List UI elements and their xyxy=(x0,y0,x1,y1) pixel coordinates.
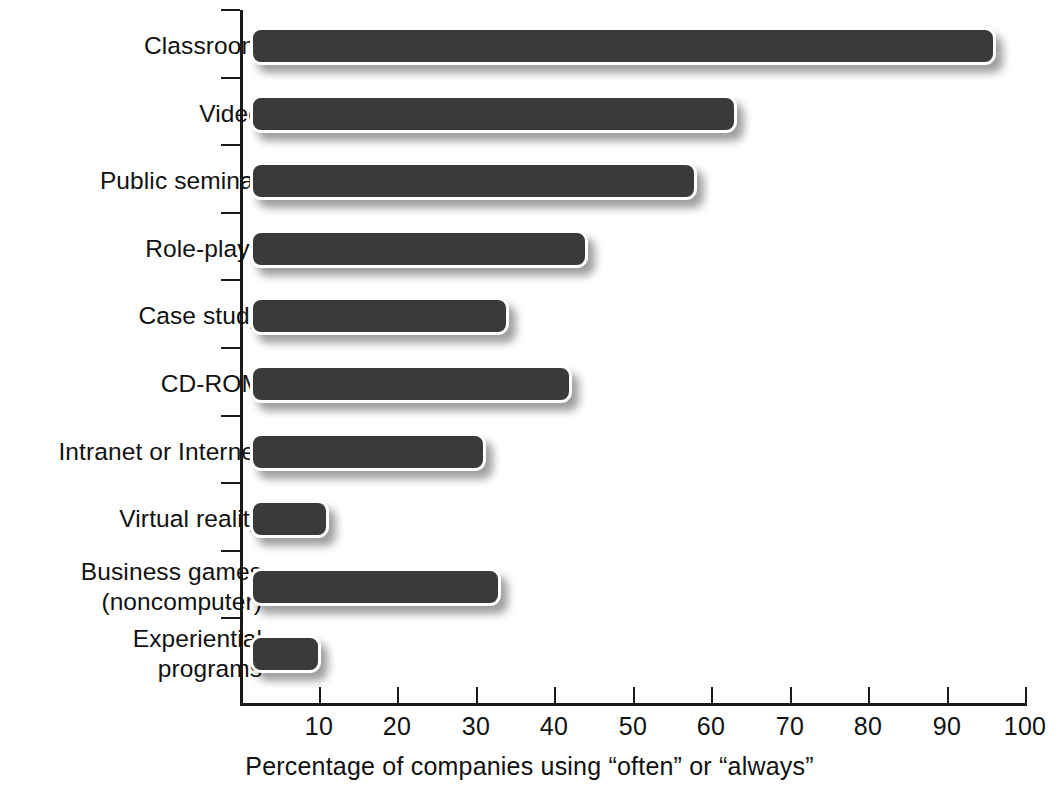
category-label-line: programs xyxy=(0,654,262,684)
plot-area: 102030405060708090100 ClassroomVideoPubl… xyxy=(0,0,1059,800)
x-axis-tick xyxy=(1025,687,1027,705)
x-axis-tick xyxy=(790,687,792,705)
x-axis-tick-label: 10 xyxy=(284,712,354,741)
y-axis-tick xyxy=(221,550,240,552)
y-axis-tick xyxy=(221,212,240,214)
bar xyxy=(250,500,329,538)
category-label: Video xyxy=(0,99,262,129)
bar xyxy=(250,162,697,200)
x-axis-tick-label: 50 xyxy=(598,712,668,741)
category-label-line: Role-plays xyxy=(0,234,262,264)
x-axis-tick-label: 40 xyxy=(519,712,589,741)
category-label: Public seminar xyxy=(0,166,262,196)
bar-chart: 102030405060708090100 ClassroomVideoPubl… xyxy=(0,0,1059,800)
bar-fill xyxy=(250,95,737,133)
x-axis-tick-label: 60 xyxy=(676,712,746,741)
y-axis-tick xyxy=(221,415,240,417)
category-label: Business games(noncomputer) xyxy=(0,557,262,617)
bar xyxy=(250,433,486,471)
x-axis-tick-label: 30 xyxy=(441,712,511,741)
category-label: Case study xyxy=(0,301,262,331)
bar xyxy=(250,635,321,673)
x-axis-tick-label: 70 xyxy=(755,712,825,741)
category-label: Intranet or Internet xyxy=(0,437,262,467)
category-label-line: Classroom xyxy=(0,31,262,61)
bar-fill xyxy=(250,365,572,403)
bar-fill xyxy=(250,568,501,606)
x-axis-tick xyxy=(633,687,635,705)
category-label: Classroom xyxy=(0,31,262,61)
bar-fill xyxy=(250,297,509,335)
bar-fill xyxy=(250,500,329,538)
bar-fill xyxy=(250,230,588,268)
x-axis-tick-label: 20 xyxy=(362,712,432,741)
bar xyxy=(250,297,509,335)
category-label-line: Business games xyxy=(0,557,262,587)
y-axis-tick xyxy=(221,279,240,281)
category-label: Role-plays xyxy=(0,234,262,264)
bar xyxy=(250,27,996,65)
x-axis-tick xyxy=(711,687,713,705)
bar xyxy=(250,95,737,133)
x-axis-tick xyxy=(476,687,478,705)
y-axis-tick xyxy=(221,144,240,146)
bar-fill xyxy=(250,27,996,65)
bar-fill xyxy=(250,162,697,200)
y-axis-tick xyxy=(221,617,240,619)
category-label-line: Experiential xyxy=(0,624,262,654)
x-axis-tick xyxy=(319,687,321,705)
y-axis-tick xyxy=(221,482,240,484)
category-label-line: Public seminar xyxy=(0,166,262,196)
y-axis-tick xyxy=(221,9,240,11)
category-label-line: Virtual reality xyxy=(0,504,262,534)
bar xyxy=(250,568,501,606)
bar xyxy=(250,230,588,268)
x-axis-tick-label: 80 xyxy=(833,712,903,741)
x-axis-tick-label: 90 xyxy=(912,712,982,741)
bar-fill xyxy=(250,635,321,673)
y-axis-tick xyxy=(221,77,240,79)
category-label-line: CD-ROM xyxy=(0,369,262,399)
bar-fill xyxy=(250,433,486,471)
x-axis-tick xyxy=(868,687,870,705)
category-label-line: Video xyxy=(0,99,262,129)
y-axis-tick xyxy=(221,347,240,349)
category-label: Experientialprograms xyxy=(0,624,262,684)
x-axis-tick xyxy=(947,687,949,705)
x-axis-title: Percentage of companies using “often” or… xyxy=(0,752,1059,781)
category-label: Virtual reality xyxy=(0,504,262,534)
category-label: CD-ROM xyxy=(0,369,262,399)
bar xyxy=(250,365,572,403)
x-axis-tick xyxy=(554,687,556,705)
category-label-line: Case study xyxy=(0,301,262,331)
x-axis-tick-label: 100 xyxy=(990,712,1059,741)
category-label-line: (noncomputer) xyxy=(0,587,262,617)
category-label-line: Intranet or Internet xyxy=(0,437,262,467)
x-axis-tick xyxy=(397,687,399,705)
